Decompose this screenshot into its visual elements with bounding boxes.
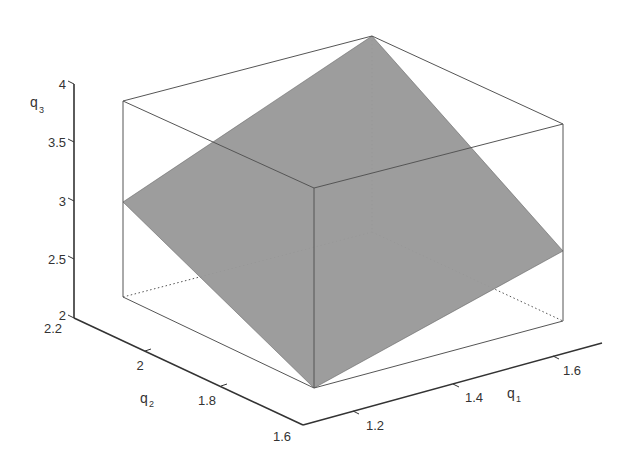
- svg-text:2: 2: [149, 399, 154, 409]
- svg-text:1: 1: [516, 394, 521, 404]
- svg-text:q: q: [140, 390, 148, 406]
- x-tick-label: 1.2: [366, 418, 384, 433]
- z-tick-label: 4: [59, 77, 66, 92]
- z-tick-label: 3: [59, 194, 66, 209]
- plane-surface: [123, 36, 563, 388]
- x-axis-ticks: [353, 356, 559, 414]
- svg-text:q: q: [507, 385, 515, 401]
- y-tick-label: 2: [136, 358, 143, 373]
- z-tick-label: 3.5: [48, 135, 66, 150]
- z-axis-ticks: [68, 81, 74, 318]
- z-axis-label: q 3: [30, 94, 44, 115]
- y-tick-label: 2.2: [44, 321, 62, 336]
- surface-plot: 4 3.5 3 2.5 2 2.2 2 1.8 1.6 1.2 1.4 1.6 …: [0, 0, 638, 466]
- y-axis-label: q 2: [140, 390, 154, 409]
- x-axis-label: q 1: [507, 385, 521, 404]
- x-tick-label: 1.4: [465, 390, 483, 405]
- y-tick-label: 1.6: [273, 429, 291, 444]
- svg-text:3: 3: [39, 105, 44, 115]
- svg-text:q: q: [30, 94, 38, 110]
- y-tick-label: 1.8: [198, 393, 216, 408]
- z-tick-label: 2.5: [48, 252, 66, 267]
- y-axis-ticks: [145, 349, 227, 386]
- x-tick-label: 1.6: [563, 363, 581, 378]
